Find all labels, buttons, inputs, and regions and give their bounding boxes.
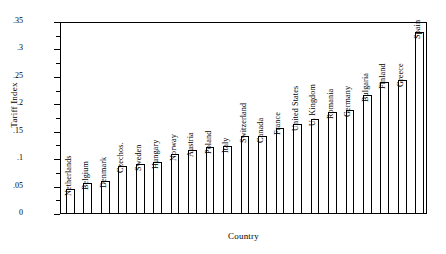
bar [415,32,424,213]
x-tick-label: Canada [256,118,265,143]
bar [171,154,180,213]
bar [328,112,337,213]
y-tick-mark [54,214,60,215]
x-tick-label: Greece [396,63,405,87]
x-tick-label: Denmark [99,157,108,188]
tariff-index-bar-chart: Tariff Index 0.05.1.15.2.25.3.35 Netherl… [0,0,446,254]
bar [136,164,145,213]
bar [223,146,232,213]
x-tick-label: U. Kingdom [308,84,317,126]
x-tick-label: Romania [326,88,335,118]
x-tick-label: United States [291,86,300,131]
x-tick-label: Poland [204,131,213,154]
x-tick-label: Finland [378,64,387,90]
x-tick-label: Belgium [81,161,90,190]
x-tick-label: France [273,112,282,135]
bar [276,128,285,213]
bar [258,136,267,213]
x-tick-label: Germany [343,86,352,117]
bar [206,147,215,213]
x-tick-label: Netherlands [64,156,73,197]
bar [363,95,372,213]
x-tick-label: Hungary [151,140,160,169]
bar [293,124,302,213]
bar [188,150,197,213]
bar [380,82,389,213]
x-axis-title: Country [60,231,427,241]
bar [118,166,127,213]
bar [311,119,320,213]
x-tick-label: Italy [221,138,230,154]
x-tick-label: Czechos. [116,143,125,174]
bar [398,80,407,213]
bar [153,162,162,213]
x-tick-label: Switzerland [239,103,248,143]
bar [346,110,355,213]
x-tick-label: Sweden [134,144,143,171]
x-tick-label: Spain [413,20,422,39]
x-tick-label: Austria [186,132,195,157]
x-tick-label: Bulgaria [361,73,370,102]
bar [241,136,250,213]
x-tick-label: Norway [169,134,178,161]
